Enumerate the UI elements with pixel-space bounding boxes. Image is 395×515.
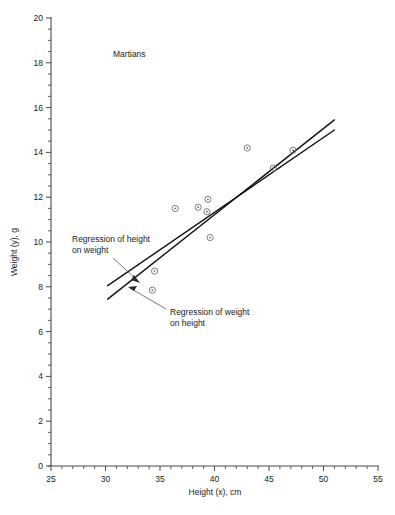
y-axis-ticks [46, 18, 51, 466]
x-tick-label: 55 [373, 474, 383, 484]
regression-lines [108, 120, 335, 299]
x-axis-title: Height (x), cm [189, 487, 242, 497]
scatter-plot-canvas: 02468101214161820 Weight (y), g 25303540… [0, 0, 395, 515]
annotation-wh-leader [130, 288, 166, 309]
x-axis: 25303540455055 Height (x), cm [46, 466, 383, 497]
x-tick-label: 40 [210, 474, 220, 484]
data-point [172, 205, 178, 211]
data-point [244, 145, 250, 151]
y-tick-label: 0 [38, 461, 43, 471]
annotation-wh-line1: Regression of weight [170, 307, 250, 317]
y-tick-label: 12 [34, 192, 44, 202]
y-tick-label: 10 [34, 237, 44, 247]
data-point [149, 287, 155, 293]
x-axis-ticks [51, 466, 378, 471]
annotation-wh-arrowhead [128, 286, 137, 291]
y-axis-title: Weight (y), g [9, 228, 19, 276]
annotation-height-on-weight: Regression of height on weight [72, 234, 151, 283]
x-tick-label: 35 [155, 474, 165, 484]
y-tick-label: 18 [34, 58, 44, 68]
annotation-hw-line2: on weight [72, 245, 109, 255]
data-point [151, 268, 157, 274]
data-point [195, 204, 201, 210]
x-tick-label: 30 [101, 474, 111, 484]
annotation-weight-on-height: Regression of weight on height [128, 286, 250, 328]
data-point [207, 234, 213, 240]
y-tick-label: 2 [38, 416, 43, 426]
annotation-hw-line1: Regression of height [72, 234, 151, 244]
data-point [205, 196, 211, 202]
data-point [270, 165, 276, 171]
y-tick-label: 8 [38, 282, 43, 292]
y-tick-label: 14 [34, 147, 44, 157]
y-axis-tick-labels: 02468101214161820 [34, 13, 44, 471]
y-tick-label: 16 [34, 103, 44, 113]
data-point [204, 209, 210, 215]
x-tick-label: 45 [264, 474, 274, 484]
regression-line [108, 120, 335, 299]
x-tick-label: 50 [319, 474, 329, 484]
y-axis: 02468101214161820 Weight (y), g [9, 13, 51, 471]
regression-line [108, 130, 335, 286]
y-tick-label: 20 [34, 13, 44, 23]
chart-title: Martians [113, 49, 146, 59]
annotation-wh-line2: on height [170, 318, 206, 328]
x-tick-label: 25 [46, 474, 56, 484]
chart-figure: 02468101214161820 Weight (y), g 25303540… [0, 0, 395, 515]
x-axis-tick-labels: 25303540455055 [46, 474, 383, 484]
y-tick-label: 4 [38, 371, 43, 381]
y-tick-label: 6 [38, 327, 43, 337]
